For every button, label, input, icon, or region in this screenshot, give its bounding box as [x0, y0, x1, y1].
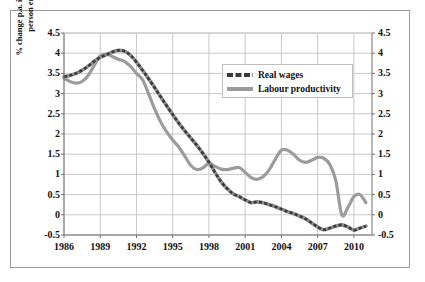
y-axis-left-tick-3neg5: 3.5 — [22, 68, 60, 78]
legend-item-real-wages: Real wages — [227, 68, 348, 82]
y-axis-left-tick-4neg5: 4.5 — [22, 28, 60, 38]
x-axis-tick-1989: 1989 — [80, 242, 120, 252]
y-axis-left-tick-2neg5: 2.5 — [22, 109, 60, 119]
y-axis-right-tick-3neg5: 3.5 — [378, 68, 416, 78]
legend-item-labour-productivity: Labour productivity — [227, 82, 348, 96]
y-axis-left-tick-1neg5: 1.5 — [22, 149, 60, 159]
y-axis-right-tick-4: 4 — [378, 48, 416, 58]
legend-label-real-wages: Real wages — [258, 70, 303, 80]
y-axis-left-tick-2: 2 — [22, 129, 60, 139]
y-axis-right-tick-1: 1 — [378, 169, 416, 179]
y-axis-left-tick-3: 3 — [22, 89, 60, 99]
x-axis-tick-1998: 1998 — [189, 242, 229, 252]
y-axis-right-tick-2neg5: 2.5 — [378, 109, 416, 119]
plot-area — [0, 0, 425, 282]
x-axis-tick-1986: 1986 — [44, 242, 84, 252]
y-axis-right-tick-3: 3 — [378, 89, 416, 99]
x-axis-tick-2001: 2001 — [225, 242, 265, 252]
y-axis-left-tick-0neg5: 0.5 — [22, 190, 60, 200]
legend-swatch-labour-productivity — [227, 84, 253, 94]
x-axis-tick-2007: 2007 — [298, 242, 338, 252]
y-axis-left-tick-4: 4 — [22, 48, 60, 58]
y-axis-right-tick-2: 2 — [378, 129, 416, 139]
chart-legend: Real wages Labour productivity — [222, 64, 353, 98]
chart-svg — [0, 0, 425, 282]
x-axis-tick-2004: 2004 — [261, 242, 301, 252]
chart-figure: % change p.a. in real wages and output p… — [0, 0, 425, 282]
y-axis-right-tick-4neg5: 4.5 — [378, 28, 416, 38]
y-axis-right-tick-1neg5: 1.5 — [378, 149, 416, 159]
y-axis-right-tick-neg0-5: -0.5 — [378, 230, 416, 240]
x-axis-tick-2010: 2010 — [334, 242, 374, 252]
y-axis-left-tick-1: 1 — [22, 169, 60, 179]
legend-swatch-real-wages — [227, 70, 253, 80]
y-axis-right-tick-0: 0 — [378, 210, 416, 220]
x-axis-tick-1992: 1992 — [116, 242, 156, 252]
x-axis-tick-1995: 1995 — [153, 242, 193, 252]
y-axis-left-tick-0: 0 — [22, 210, 60, 220]
legend-label-labour-productivity: Labour productivity — [258, 84, 341, 94]
y-axis-left-tick-neg0-5: -0.5 — [22, 230, 60, 240]
y-axis-right-tick-0neg5: 0.5 — [378, 190, 416, 200]
